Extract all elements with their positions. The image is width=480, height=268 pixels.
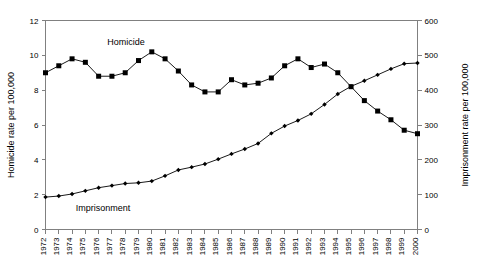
x-axis-tick-label: 1982: [171, 237, 180, 255]
series-line: [46, 52, 418, 134]
data-point: [282, 124, 286, 128]
data-point: [335, 70, 340, 75]
data-point: [242, 82, 247, 87]
data-point: [163, 174, 167, 178]
data-point: [110, 183, 114, 187]
x-axis-tick-label: 1996: [357, 237, 366, 255]
series-label-homicide: Homicide: [107, 37, 145, 47]
x-axis-tick-label: 1978: [118, 237, 127, 255]
series-line: [46, 63, 418, 197]
data-point: [402, 61, 406, 65]
x-axis-tick-label: 1972: [39, 237, 48, 255]
data-point: [163, 56, 168, 61]
x-axis-tick-label: 1991: [291, 237, 300, 255]
x-axis-tick-label: 1976: [92, 237, 101, 255]
data-point: [83, 189, 87, 193]
left-axis: 024681012Homicide rate per 100,000: [6, 17, 46, 235]
data-point: [362, 79, 366, 83]
left-axis-tick-label: 2: [34, 191, 39, 200]
right-axis: 0100200300400500600Imprisonment rate per…: [418, 17, 471, 235]
data-point: [136, 181, 140, 185]
left-axis-tick-label: 10: [30, 51, 39, 60]
data-point: [149, 49, 154, 54]
data-point: [123, 70, 128, 75]
data-point: [56, 63, 61, 68]
x-axis-tick-label: 1988: [251, 237, 260, 255]
left-axis-tick-label: 0: [34, 226, 39, 235]
right-axis-tick-label: 600: [425, 17, 439, 26]
data-point: [70, 56, 75, 61]
data-point: [202, 89, 207, 94]
x-axis-tick-label: 1973: [52, 237, 61, 255]
x-axis-tick-label: 1994: [331, 237, 340, 255]
data-point: [176, 69, 181, 74]
data-point: [229, 77, 234, 82]
data-point: [269, 75, 274, 80]
data-point: [216, 89, 221, 94]
series-homicide: [43, 49, 420, 136]
data-point: [388, 117, 393, 122]
right-axis-tick-label: 500: [425, 51, 439, 60]
data-point: [375, 109, 380, 114]
data-point: [176, 168, 180, 172]
chart-container: 024681012Homicide rate per 100,000010020…: [0, 0, 480, 268]
series-label-imprisonment: Imprisonment: [76, 203, 131, 213]
data-point: [83, 60, 88, 65]
x-axis-tick-label: 1997: [371, 237, 380, 255]
plot-frame: [46, 21, 418, 230]
x-axis-tick-label: 1987: [238, 237, 247, 255]
data-point: [189, 82, 194, 87]
x-axis-tick-label: 1989: [264, 237, 273, 255]
x-axis-tick-label: 1981: [158, 237, 167, 255]
left-axis-tick-label: 8: [34, 86, 39, 95]
left-axis-tick-label: 4: [34, 156, 39, 165]
data-point: [243, 147, 247, 151]
x-axis-tick-label: 1999: [397, 237, 406, 255]
data-point: [295, 56, 300, 61]
data-point: [402, 128, 407, 133]
x-axis-tick-label: 1977: [105, 237, 114, 255]
x-axis-tick-label: 1979: [132, 237, 141, 255]
data-point: [136, 58, 141, 63]
data-point: [362, 98, 367, 103]
x-axis-tick-label: 2000: [411, 237, 420, 255]
x-axis-tick-label: 1974: [65, 237, 74, 255]
x-axis-tick-label: 1975: [78, 237, 87, 255]
data-point: [70, 192, 74, 196]
data-point: [256, 81, 261, 86]
left-axis-tick-label: 6: [34, 121, 39, 130]
x-axis-tick-label: 1984: [198, 237, 207, 255]
left-axis-title: Homicide rate per 100,000: [6, 72, 16, 178]
data-point: [296, 118, 300, 122]
right-axis-tick-label: 300: [425, 121, 439, 130]
x-axis-tick-label: 1992: [304, 237, 313, 255]
data-point: [150, 179, 154, 183]
x-axis-tick-label: 1998: [384, 237, 393, 255]
data-point: [43, 70, 48, 75]
data-point: [96, 74, 101, 79]
right-axis-tick-label: 200: [425, 156, 439, 165]
data-point: [282, 63, 287, 68]
x-axis-tick-label: 1993: [318, 237, 327, 255]
data-point: [203, 162, 207, 166]
x-axis: 1972197319741975197619771978197919801981…: [39, 230, 420, 256]
x-axis-tick-label: 1980: [145, 237, 154, 255]
data-point: [216, 157, 220, 161]
x-axis-tick-label: 1986: [225, 237, 234, 255]
data-point: [229, 152, 233, 156]
data-point: [96, 186, 100, 190]
right-axis-tick-label: 100: [425, 191, 439, 200]
data-point: [309, 65, 314, 70]
data-point: [57, 194, 61, 198]
x-axis-tick-label: 1983: [185, 237, 194, 255]
homicide-imprisonment-line-chart: 024681012Homicide rate per 100,000010020…: [0, 0, 480, 268]
data-point: [109, 74, 114, 79]
data-point: [389, 67, 393, 71]
data-point: [375, 73, 379, 77]
data-point: [322, 62, 327, 67]
data-point: [415, 131, 420, 136]
left-axis-tick-label: 12: [30, 17, 39, 26]
right-axis-tick-label: 400: [425, 86, 439, 95]
x-axis-tick-label: 1990: [278, 237, 287, 255]
right-axis-title: Imprisonment rate per 100,000: [460, 63, 470, 186]
